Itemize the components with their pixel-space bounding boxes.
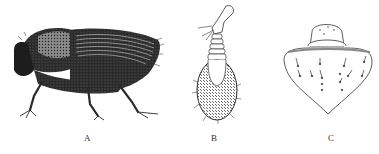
panel-c-label: C [328, 134, 334, 143]
figure: A [0, 0, 379, 154]
panel-c-plate-illustration [278, 18, 376, 116]
panel-b-label: B [211, 134, 217, 143]
plate-icon [278, 18, 376, 116]
panel-a-beetle-illustration [8, 22, 168, 122]
antenna-icon [188, 2, 248, 124]
panel-b-antenna-illustration [188, 2, 248, 124]
beetle-icon [8, 22, 168, 122]
panel-a-label: A [84, 134, 91, 143]
